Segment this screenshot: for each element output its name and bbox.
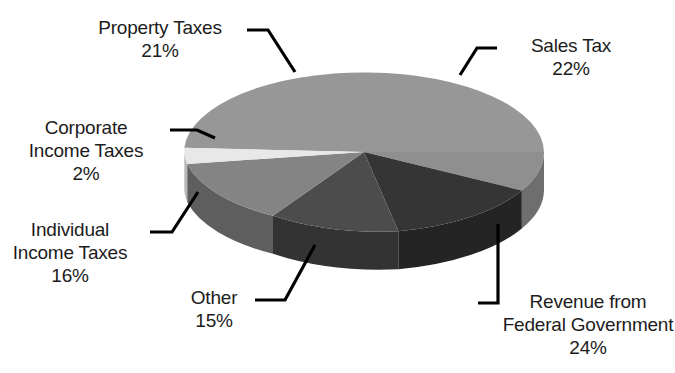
label-revenue-federal-line1: Revenue from bbox=[498, 290, 675, 313]
label-corporate-income-taxes-line1: Corporate bbox=[6, 116, 166, 139]
leader-line-sales-tax bbox=[460, 48, 497, 75]
label-revenue-federal: Revenue from Federal Government 24% bbox=[498, 290, 675, 359]
label-individual-income-taxes-percent: 16% bbox=[0, 264, 150, 287]
leader-line-property-taxes bbox=[247, 30, 295, 72]
label-sales-tax-percent: 22% bbox=[504, 57, 638, 80]
label-individual-income-taxes: Individual Income Taxes 16% bbox=[0, 218, 150, 287]
label-sales-tax-name: Sales Tax bbox=[504, 34, 638, 57]
label-other-percent: 15% bbox=[176, 309, 252, 332]
label-other: Other 15% bbox=[176, 286, 252, 332]
label-corporate-income-taxes-percent: 2% bbox=[6, 162, 166, 185]
label-corporate-income-taxes: Corporate Income Taxes 2% bbox=[6, 116, 166, 185]
label-individual-income-taxes-line2: Income Taxes bbox=[0, 241, 150, 264]
label-revenue-federal-percent: 24% bbox=[498, 336, 675, 359]
pie-slice-property-taxes bbox=[184, 72, 544, 152]
label-corporate-income-taxes-line2: Income Taxes bbox=[6, 139, 166, 162]
label-revenue-federal-line2: Federal Government bbox=[498, 313, 675, 336]
label-property-taxes-name: Property Taxes bbox=[74, 16, 246, 39]
label-other-name: Other bbox=[176, 286, 252, 309]
label-property-taxes-percent: 21% bbox=[74, 39, 246, 62]
pie-chart: Property Taxes 21% Sales Tax 22% Corpora… bbox=[0, 0, 675, 373]
label-sales-tax: Sales Tax 22% bbox=[504, 34, 638, 80]
label-individual-income-taxes-line1: Individual bbox=[0, 218, 150, 241]
label-property-taxes: Property Taxes 21% bbox=[74, 16, 246, 62]
